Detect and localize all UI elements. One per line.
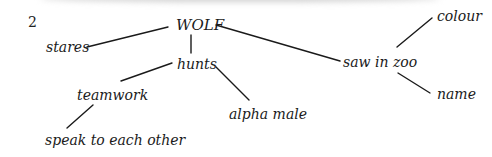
edge-teamwork-speak [67,105,93,128]
node-stares: stares [46,39,89,55]
edge-zoo-colour [397,18,432,47]
node-alpha-male: alpha male [229,106,307,122]
edge-wolf-zoo [216,25,340,61]
mind-map: 2 WOLF stares hunts teamwork alpha male … [0,0,492,157]
node-teamwork: teamwork [77,87,148,103]
node-name: name [437,86,476,102]
node-speak-to-each-other: speak to each other [45,132,185,148]
edge-wolf-stares [87,27,168,47]
node-wolf: WOLF [176,17,224,33]
edge-hunts-teamwork [121,63,172,81]
figure-number: 2 [28,14,37,30]
node-colour: colour [437,8,482,24]
node-hunts: hunts [177,56,217,72]
edge-hunts-alpha [216,67,249,100]
edge-zoo-name [398,73,430,93]
node-saw-in-zoo: saw in zoo [343,54,417,70]
